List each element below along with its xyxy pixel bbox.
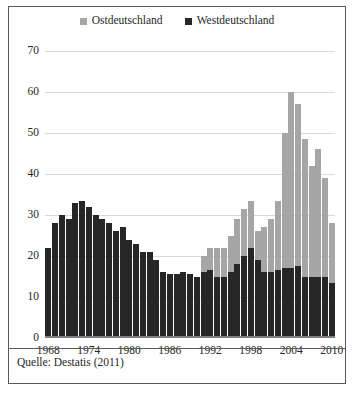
bar-2007[interactable] <box>309 51 315 338</box>
bar-1970[interactable] <box>59 51 65 338</box>
y-axis-tick-label: 40 <box>28 168 40 180</box>
bar-segment-ostdeutschland <box>329 223 335 282</box>
legend-label-westdeutschland: Westdeutschland <box>197 15 275 27</box>
legend-item-westdeutschland[interactable]: Westdeutschland <box>185 15 275 27</box>
bar-1996[interactable] <box>234 51 240 338</box>
bar-segment-westdeutschland <box>86 207 92 338</box>
x-axis-tick-label: 1974 <box>77 345 100 357</box>
bar-1975[interactable] <box>93 51 99 338</box>
bar-segment-westdeutschland <box>309 277 315 339</box>
bar-1979[interactable] <box>120 51 126 338</box>
bar-2003[interactable] <box>282 51 288 338</box>
square-marker-icon <box>80 18 87 25</box>
bar-segment-ostdeutschland <box>255 231 261 260</box>
y-axis-tick-label: 30 <box>28 209 40 221</box>
bar-segment-ostdeutschland <box>201 256 207 272</box>
bar-1981[interactable] <box>133 51 139 338</box>
x-axis-tick-label: 2004 <box>280 345 303 357</box>
bar-segment-westdeutschland <box>45 248 51 338</box>
bar-segment-westdeutschland <box>288 268 294 338</box>
legend-item-ostdeutschland[interactable]: Ostdeutschland <box>80 15 163 27</box>
bar-segment-ostdeutschland <box>248 201 254 248</box>
bar-segment-westdeutschland <box>282 268 288 338</box>
bar-segment-westdeutschland <box>248 248 254 338</box>
bar-1985[interactable] <box>160 51 166 338</box>
bar-1968[interactable] <box>45 51 51 338</box>
bar-segment-ostdeutschland <box>207 248 213 271</box>
bar-segment-westdeutschland <box>234 264 240 338</box>
bar-segment-ostdeutschland <box>268 219 274 272</box>
bar-1974[interactable] <box>86 51 92 338</box>
bar-segment-ostdeutschland <box>214 248 220 277</box>
bar-segment-westdeutschland <box>268 272 274 338</box>
bar-segment-westdeutschland <box>275 270 281 338</box>
bar-1999[interactable] <box>255 51 261 338</box>
bar-1971[interactable] <box>66 51 72 338</box>
plot-area: 706050403020100 196819741980198619921998… <box>45 51 335 338</box>
bar-1977[interactable] <box>106 51 112 338</box>
bar-segment-ostdeutschland <box>295 104 301 266</box>
bar-segment-westdeutschland <box>99 219 105 338</box>
bar-2001[interactable] <box>268 51 274 338</box>
x-axis-tick-label: 1968 <box>37 345 60 357</box>
bar-1990[interactable] <box>194 51 200 338</box>
bar-1998[interactable] <box>248 51 254 338</box>
y-axis-tick-label: 70 <box>28 45 40 57</box>
bar-1988[interactable] <box>180 51 186 338</box>
bar-segment-westdeutschland <box>113 231 119 338</box>
bar-segment-ostdeutschland <box>282 133 288 268</box>
bar-1987[interactable] <box>174 51 180 338</box>
bar-1994[interactable] <box>221 51 227 338</box>
bar-2010[interactable] <box>329 51 335 338</box>
bar-1983[interactable] <box>147 51 153 338</box>
bar-segment-westdeutschland <box>66 219 72 338</box>
bar-segment-ostdeutschland <box>221 248 227 277</box>
bar-1992[interactable] <box>207 51 213 338</box>
bar-1973[interactable] <box>79 51 85 338</box>
bar-segment-ostdeutschland <box>261 227 267 272</box>
x-axis-tick-label: 1980 <box>118 345 141 357</box>
bar-segment-westdeutschland <box>221 277 227 339</box>
bar-segment-westdeutschland <box>153 260 159 338</box>
bar-segment-westdeutschland <box>302 277 308 339</box>
bar-segment-westdeutschland <box>106 223 112 338</box>
bar-1991[interactable] <box>201 51 207 338</box>
bar-1993[interactable] <box>214 51 220 338</box>
bar-2000[interactable] <box>261 51 267 338</box>
bar-2004[interactable] <box>288 51 294 338</box>
bar-segment-westdeutschland <box>180 272 186 338</box>
bar-1982[interactable] <box>140 51 146 338</box>
bar-segment-westdeutschland <box>133 244 139 338</box>
bar-1980[interactable] <box>126 51 132 338</box>
bar-segment-ostdeutschland <box>228 236 234 273</box>
y-axis-tick-label: 10 <box>28 291 40 303</box>
bar-segment-westdeutschland <box>322 277 328 339</box>
x-axis-line <box>45 336 335 338</box>
bar-1972[interactable] <box>72 51 78 338</box>
bar-1978[interactable] <box>113 51 119 338</box>
x-axis-tick-label: 1998 <box>239 345 262 357</box>
bar-2008[interactable] <box>315 51 321 338</box>
bar-1969[interactable] <box>52 51 58 338</box>
bar-2006[interactable] <box>302 51 308 338</box>
bar-segment-westdeutschland <box>201 272 207 338</box>
bar-2009[interactable] <box>322 51 328 338</box>
bar-1984[interactable] <box>153 51 159 338</box>
y-axis-tick-label: 60 <box>28 86 40 98</box>
bar-1989[interactable] <box>187 51 193 338</box>
y-axis-tick-label: 20 <box>28 250 40 262</box>
bar-segment-ostdeutschland <box>241 209 247 256</box>
chart-legend: Ostdeutschland Westdeutschland <box>9 13 345 29</box>
bar-1976[interactable] <box>99 51 105 338</box>
bar-2005[interactable] <box>295 51 301 338</box>
bar-2002[interactable] <box>275 51 281 338</box>
bar-1995[interactable] <box>228 51 234 338</box>
bar-segment-ostdeutschland <box>302 139 308 276</box>
bar-segment-ostdeutschland <box>275 201 281 271</box>
bar-1986[interactable] <box>167 51 173 338</box>
chart-figure: Ostdeutschland Westdeutschland 706050403… <box>8 6 346 384</box>
square-marker-icon <box>185 18 192 25</box>
bar-1997[interactable] <box>241 51 247 338</box>
bar-series-group <box>45 51 335 338</box>
y-axis-tick-label: 50 <box>28 127 40 139</box>
